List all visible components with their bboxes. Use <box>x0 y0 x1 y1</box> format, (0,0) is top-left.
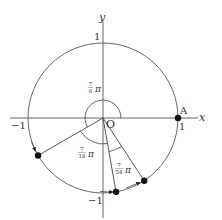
point-a-label: A <box>179 105 188 116</box>
arrow-to-p1-icon <box>32 142 36 151</box>
tick-pos-y: 1 <box>94 31 100 42</box>
tick-pos-x: 1 <box>179 121 185 132</box>
angle-arc-7-18-pi <box>80 131 107 144</box>
angle-arc-7-54-pi <box>109 146 122 151</box>
svg-text:π: π <box>87 149 95 159</box>
origin-label: O <box>106 118 115 131</box>
x-axis-label: x <box>199 111 206 124</box>
svg-text:54: 54 <box>116 169 123 175</box>
point-p1 <box>35 152 41 158</box>
tick-neg-x: −1 <box>11 120 26 131</box>
unit-circle-diagram: x y O 1 −1 1 −1 A 7 6 π 7 18 π 7 54 π <box>0 0 222 220</box>
svg-text:18: 18 <box>79 153 86 159</box>
arrow-to-p2-icon <box>100 192 113 193</box>
y-axis-label: y <box>98 11 106 24</box>
tick-neg-y: −1 <box>88 195 103 206</box>
svg-text:6: 6 <box>89 88 93 94</box>
point-p3 <box>141 178 147 184</box>
point-p2 <box>113 189 119 195</box>
angle-label-7-18-pi: 7 18 π <box>78 146 95 159</box>
svg-text:7: 7 <box>117 162 121 168</box>
svg-text:7: 7 <box>89 81 93 87</box>
svg-text:π: π <box>94 84 102 94</box>
angle-label-7-54-pi: 7 54 π <box>115 162 132 175</box>
svg-text:7: 7 <box>80 146 84 152</box>
svg-text:π: π <box>124 165 132 175</box>
angle-label-7-6-pi: 7 6 π <box>88 81 102 94</box>
